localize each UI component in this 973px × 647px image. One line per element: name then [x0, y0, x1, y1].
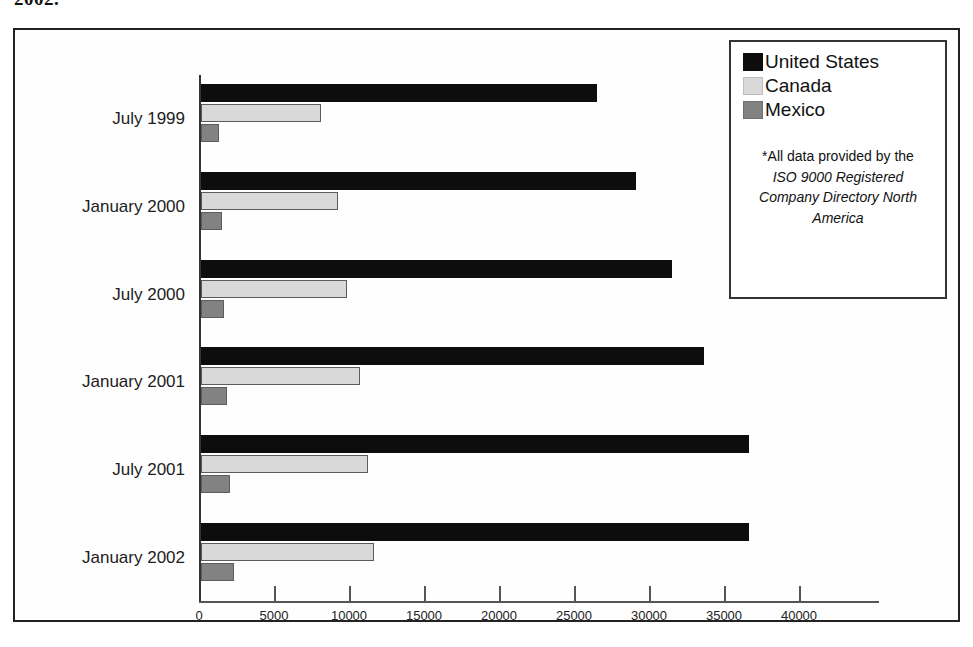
- bar-mexico: [201, 475, 230, 493]
- legend-note: *All data provided by the ISO 9000 Regis…: [743, 146, 933, 228]
- bar-united-states: [201, 435, 749, 453]
- x-axis-tick-label: 15000: [406, 608, 442, 623]
- category-axis-label: January 2000: [82, 197, 185, 217]
- bar-mexico: [201, 387, 227, 405]
- chart-legend: United StatesCanadaMexico *All data prov…: [729, 40, 947, 299]
- figure-frame: July 1999January 2000July 2000January 20…: [13, 28, 960, 622]
- bar-canada: [201, 192, 338, 210]
- legend-swatch-icon: [743, 101, 763, 119]
- x-axis-tick: [649, 586, 651, 601]
- bar-canada: [201, 455, 368, 473]
- legend-item-us: United States: [743, 52, 933, 72]
- legend-swatch-icon: [743, 53, 763, 71]
- x-axis-tick: [799, 586, 801, 601]
- category-group: July 2001: [199, 426, 799, 514]
- legend-entries: United StatesCanadaMexico: [743, 52, 933, 120]
- bar-canada: [201, 104, 321, 122]
- category-axis-label: January 2002: [82, 548, 185, 568]
- legend-item-mexico: Mexico: [743, 100, 933, 120]
- category-axis-label: July 1999: [112, 109, 185, 129]
- caption-fragment: 2002.: [14, 0, 59, 10]
- bar-united-states: [201, 84, 597, 102]
- plot-area: July 1999January 2000July 2000January 20…: [199, 75, 799, 602]
- x-axis-tick-label: 5000: [260, 608, 289, 623]
- x-axis-tick: [724, 586, 726, 601]
- category-axis-label: January 2001: [82, 372, 185, 392]
- bar-mexico: [201, 124, 219, 142]
- legend-label: United States: [765, 52, 879, 72]
- legend-note-lead: *All data provided by the: [762, 148, 914, 164]
- bar-united-states: [201, 172, 636, 190]
- x-axis-tick-label: 35000: [706, 608, 742, 623]
- x-axis-tick: [499, 586, 501, 601]
- x-axis-tick: [349, 586, 351, 601]
- bar-mexico: [201, 563, 234, 581]
- bar-canada: [201, 367, 360, 385]
- category-group: July 1999: [199, 75, 799, 163]
- x-axis-tick-label: 0: [195, 608, 202, 623]
- bar-mexico: [201, 300, 224, 318]
- bar-canada: [201, 280, 347, 298]
- bar-united-states: [201, 347, 704, 365]
- x-axis-tick: [274, 586, 276, 601]
- category-axis-label: July 2000: [112, 285, 185, 305]
- x-axis-tick-label: 40000: [781, 608, 817, 623]
- bar-canada: [201, 543, 374, 561]
- x-axis-tick: [424, 586, 426, 601]
- bar-united-states: [201, 260, 672, 278]
- x-axis-tick-label: 25000: [556, 608, 592, 623]
- bar-mexico: [201, 212, 222, 230]
- legend-label: Mexico: [765, 100, 825, 120]
- legend-label: Canada: [765, 76, 832, 96]
- x-axis-tick-label: 30000: [631, 608, 667, 623]
- bar-united-states: [201, 523, 749, 541]
- category-axis-label: July 2001: [112, 460, 185, 480]
- x-axis-tick-label: 20000: [481, 608, 517, 623]
- category-group: January 2001: [199, 339, 799, 427]
- legend-item-canada: Canada: [743, 76, 933, 96]
- category-group: July 2000: [199, 251, 799, 339]
- legend-swatch-icon: [743, 77, 763, 95]
- x-axis-tick: [574, 586, 576, 601]
- x-axis-tick-label: 10000: [331, 608, 367, 623]
- category-group: January 2000: [199, 163, 799, 251]
- legend-note-source: ISO 9000 Registered Company Directory No…: [743, 167, 933, 228]
